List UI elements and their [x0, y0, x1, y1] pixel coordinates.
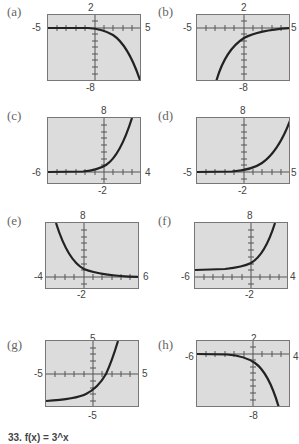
- y-max-label-a: 2: [88, 3, 94, 13]
- panel-label-f: (f): [158, 213, 171, 229]
- panel-label-g: (g): [7, 337, 22, 353]
- graph-screen-h: [196, 340, 290, 407]
- graph-plot-b: [197, 15, 290, 81]
- x-min-label-g: -5: [34, 369, 43, 379]
- x-min-label-c: -6: [32, 168, 41, 178]
- y-min-label-a: -8: [86, 83, 95, 93]
- panel-label-c: (c): [7, 108, 21, 124]
- x-max-label-h: 4: [293, 352, 299, 362]
- graph-plot-a: [48, 15, 141, 81]
- graph-screen-b: [196, 14, 290, 81]
- x-max-label-a: 5: [145, 23, 151, 33]
- panel-label-b: (b): [158, 4, 173, 20]
- graph-plot-d: [197, 118, 290, 184]
- y-min-label-d: -2: [238, 186, 247, 196]
- x-max-label-d: 5: [291, 168, 297, 178]
- y-min-label-h: -8: [249, 411, 258, 421]
- x-min-label-h: -6: [185, 352, 194, 362]
- y-min-label-c: -2: [98, 186, 107, 196]
- x-min-label-f: -6: [181, 272, 190, 282]
- graph-plot-e: [46, 223, 139, 289]
- x-min-label-a: -5: [32, 23, 41, 33]
- y-min-label-e: -2: [77, 290, 86, 300]
- graph-plot-h: [197, 341, 290, 407]
- graph-screen-g: [45, 340, 139, 407]
- y-max-label-f: 8: [247, 211, 253, 221]
- y-max-label-b: 2: [241, 3, 247, 13]
- graph-screen-d: [196, 117, 290, 184]
- graph-screen-c: [47, 117, 141, 184]
- exercise-text: 33. f(x) = 3^x: [8, 432, 69, 443]
- y-max-label-c: 8: [101, 106, 107, 116]
- graph-plot-g: [46, 341, 139, 407]
- x-min-label-e: -4: [34, 272, 43, 282]
- x-min-label-b: -5: [183, 23, 192, 33]
- panel-label-e: (e): [7, 213, 21, 229]
- x-max-label-b: 5: [291, 23, 297, 33]
- graph-plot-c: [48, 118, 141, 184]
- graph-screen-e: [45, 222, 139, 289]
- y-max-label-d: 8: [240, 106, 246, 116]
- y-min-label-f: -2: [245, 290, 254, 300]
- graph-screen-f: [194, 222, 288, 289]
- graph-screen-a: [47, 14, 141, 81]
- y-min-label-b: -8: [239, 83, 248, 93]
- y-max-label-e: 8: [80, 211, 86, 221]
- x-max-label-g: 5: [142, 369, 148, 379]
- y-min-label-g: -5: [88, 411, 97, 421]
- graph-plot-f: [195, 223, 288, 289]
- x-max-label-c: 4: [145, 168, 151, 178]
- x-max-label-f: 4: [290, 272, 296, 282]
- x-min-label-d: -5: [183, 168, 192, 178]
- panel-label-d: (d): [158, 108, 173, 124]
- x-max-label-e: 6: [143, 272, 149, 282]
- panel-label-h: (h): [158, 337, 173, 353]
- panel-label-a: (a): [7, 4, 21, 20]
